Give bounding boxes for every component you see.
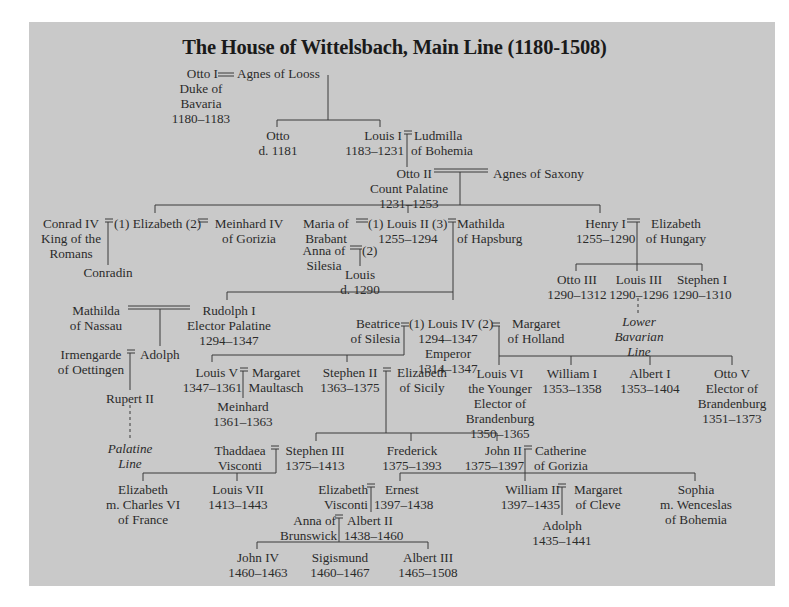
node-louis-i: Louis I	[330, 128, 402, 143]
node-elizabeth-of-sicily: Elizabeth of Sicily	[392, 365, 452, 395]
node-conrad-iv: Conrad IV King of the Romans	[38, 216, 104, 261]
node-sophia: Sophia m. Wenceslas of Bohemia	[654, 482, 738, 527]
node-irmengarde: Irmengarde of Oettingen	[56, 347, 126, 377]
node-albert-i: Albert I 1353–1404	[618, 366, 682, 396]
node-ernest-dates: 1397–1438	[374, 497, 433, 512]
node-margaret-of-holland: Margaret of Holland	[500, 316, 572, 346]
node-margaret-maultasch: Margaret Maultasch	[248, 365, 304, 395]
node-meinhard-iv: Meinhard IV of Gorizia	[212, 216, 286, 246]
node-catherine-info: of Gorizia	[534, 458, 588, 473]
node-anna-of-brunswick: Anna of Brunswick	[280, 513, 336, 543]
node-john-iv: John IV 1460–1463	[226, 550, 290, 580]
node-otto-d1181: Otto d. 1181	[250, 128, 306, 158]
node-rudolph-i: Rudolph I Elector Palatine 1294–1347	[184, 303, 274, 348]
node-elizabeth: (1) Elizabeth (2)	[114, 216, 201, 231]
node-louis-ii: (1) Louis II (3)	[368, 216, 447, 231]
node-albert-ii: Albert II	[347, 513, 393, 528]
node-agnes-of-looss: Agnes of Looss	[237, 66, 320, 81]
node-mathilda-of-nassau: Mathilda of Nassau	[66, 303, 126, 333]
node-otto-ii: Otto II	[380, 166, 432, 181]
node-albert-ii-dates: 1438–1460	[344, 528, 403, 543]
node-louis-vii: Louis VII 1413–1443	[206, 482, 270, 512]
node-frederick: Frederick 1375–1393	[380, 443, 444, 473]
node-louis-v-dates: 1347–1361	[180, 380, 242, 395]
node-otto-i-info: Duke of Bavaria 1180–1183	[166, 81, 236, 126]
node-beatrice-of-silesia: Beatrice of Silesia	[348, 316, 400, 346]
node-otto-ii-info: Count Palatine 1231–1253	[364, 181, 454, 211]
node-lower-bavarian-line: Lower Bavarian Line	[608, 314, 670, 359]
node-mathilda-of-hapsburg: Mathilda of Hapsburg	[457, 216, 522, 246]
node-rupert-ii: Rupert II	[100, 391, 160, 406]
node-john-ii: John II	[470, 443, 522, 458]
node-william-ii: William II 1397–1435	[496, 482, 560, 512]
node-william-i: William I 1353–1358	[540, 366, 604, 396]
node-stephen-iii: Stephen III 1375–1413	[282, 443, 348, 473]
node-louis-vi: Louis VI the Younger Elector of Brandenb…	[464, 366, 536, 441]
node-louis-v: Louis V	[180, 365, 238, 380]
node-adolph: Adolph	[140, 347, 180, 362]
node-stephen-i: Stephen I 1290–1310	[670, 272, 734, 302]
node-catherine: Catherine	[535, 443, 586, 458]
node-ludmilla-info: of Bohemia	[411, 143, 473, 158]
node-maria-of-brabant: Maria of Brabant	[298, 216, 354, 246]
node-louis-iv: (1) Louis IV (2)	[409, 316, 493, 331]
node-louis-i-dates: 1183–1231	[330, 143, 404, 158]
node-conradin: Conradin	[80, 265, 136, 280]
node-louis-iii: Louis III 1290–1296	[608, 272, 670, 302]
node-elizabeth-m-charles-vi: Elizabeth m. Charles VI of France	[100, 482, 186, 527]
node-john-ii-dates: 1375–1397	[460, 458, 524, 473]
node-ludmilla: Ludmilla	[414, 128, 462, 143]
node-margaret-of-cleve: Margaret of Cleve	[566, 482, 630, 512]
node-albert-iii: Albert III 1465–1508	[396, 550, 460, 580]
node-adolph-ii: Adolph 1435–1441	[530, 518, 594, 548]
node-louis-ii-dates: 1255–1294	[370, 231, 446, 246]
node-stephen-ii: Stephen II 1363–1375	[318, 365, 382, 395]
node-elizabeth-of-hungary: Elizabeth of Hungary	[641, 216, 711, 246]
node-otto-i-name: Otto I	[166, 66, 218, 81]
node-otto-iii: Otto III 1290–1312	[546, 272, 608, 302]
node-agnes-of-saxony: Agnes of Saxony	[493, 166, 584, 181]
node-sigismund: Sigismund 1460–1467	[308, 550, 372, 580]
node-louis-d1290: Louis d. 1290	[334, 267, 386, 297]
node-henry-i: Henry I 1255–1290	[576, 216, 626, 246]
node-palatine-line: Palatine Line	[100, 441, 160, 471]
node-meinhard: Meinhard 1361–1363	[212, 399, 274, 429]
node-thaddaea-visconti: Thaddaea Visconti	[210, 443, 270, 473]
node-ernest: Ernest	[385, 482, 419, 497]
node-elizabeth-visconti: Elizabeth Visconti	[312, 482, 368, 512]
node-otto-v: Otto V Elector of Brandenburg 1351–1373	[694, 366, 770, 426]
